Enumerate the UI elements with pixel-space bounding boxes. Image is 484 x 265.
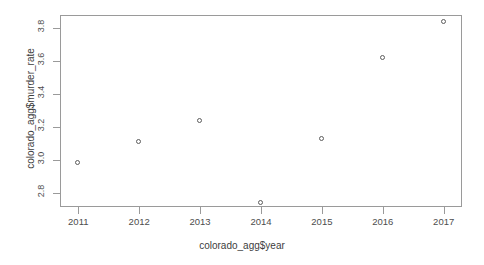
y-tick-label-text: 3.4	[37, 86, 47, 99]
y-tick-label-text: 3.0	[37, 152, 47, 165]
x-tick-mark	[444, 207, 445, 214]
x-tick-label: 2011	[55, 216, 101, 227]
x-tick-label: 2017	[421, 216, 467, 227]
y-tick-mark	[53, 28, 60, 29]
y-tick-mark	[53, 160, 60, 161]
y-tick-mark	[53, 193, 60, 194]
x-tick-mark	[200, 207, 201, 214]
x-tick-mark	[139, 207, 140, 214]
x-tick-mark	[383, 207, 384, 214]
data-point-marker	[258, 200, 263, 205]
x-tick-label: 2014	[238, 216, 284, 227]
y-tick-label-text: 3.8	[37, 20, 47, 33]
data-point-marker	[380, 55, 385, 60]
y-tick-mark	[53, 94, 60, 95]
x-tick-mark	[261, 207, 262, 214]
x-tick-label: 2016	[360, 216, 406, 227]
x-tick-label: 2012	[116, 216, 162, 227]
x-tick-mark	[322, 207, 323, 214]
data-point-marker	[319, 136, 324, 141]
x-axis-title: colorado_agg$year	[0, 240, 484, 251]
y-tick-label-text: 3.6	[37, 53, 47, 66]
x-tick-label: 2015	[299, 216, 345, 227]
plot-panel-box	[60, 15, 462, 207]
y-tick-label-text: 2.8	[37, 185, 47, 198]
y-axis-title: colorado_agg$murder_rate	[25, 9, 36, 209]
x-tick-mark	[78, 207, 79, 214]
y-tick-label-text: 3.2	[37, 119, 47, 132]
x-tick-label: 2013	[177, 216, 223, 227]
y-tick-mark	[53, 127, 60, 128]
scatter-plot-figure: 2.83.03.23.43.63.8 201120122013201420152…	[0, 0, 484, 265]
data-point-marker	[441, 19, 446, 24]
y-tick-mark	[53, 61, 60, 62]
data-point-marker	[197, 118, 202, 123]
